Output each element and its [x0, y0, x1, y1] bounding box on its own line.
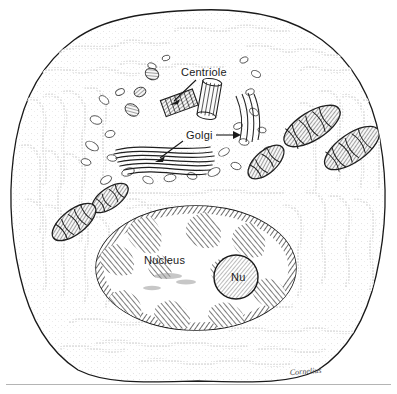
label-golgi: Golgi — [186, 129, 213, 141]
nucleus — [96, 206, 296, 330]
cell-illustration: Centriole Golgi Nucleus Nu Cornelius — [0, 0, 397, 394]
cell-diagram-figure: Centriole Golgi Nucleus Nu Cornelius — [0, 0, 397, 394]
artist-signature: Cornelius — [290, 366, 322, 377]
bottom-divider — [6, 384, 391, 385]
label-nucleus: Nucleus — [144, 254, 185, 266]
label-nucleolus: Nu — [231, 271, 245, 283]
label-centriole: Centriole — [181, 66, 227, 78]
